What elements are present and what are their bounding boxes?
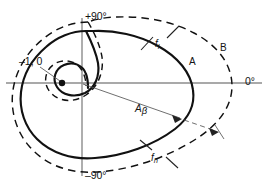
curve-a-label: A bbox=[189, 57, 196, 67]
curve-b-inner-loop-path bbox=[46, 22, 103, 100]
freq-high-ticks bbox=[140, 140, 178, 168]
freq-high-label: fh bbox=[151, 148, 158, 164]
freq-high-subscript: h bbox=[154, 156, 158, 165]
a-beta-symbol: A bbox=[135, 103, 142, 114]
freq-high-tick-dashed bbox=[166, 157, 178, 168]
a-beta-vector-group bbox=[83, 84, 224, 139]
curve-b-outer-path bbox=[12, 17, 232, 172]
a-beta-subscript: β bbox=[142, 105, 147, 116]
plot-canvas bbox=[0, 0, 268, 191]
a-beta-arrowhead-solid bbox=[172, 115, 182, 123]
freq-low-subscript: l bbox=[158, 42, 160, 51]
critical-point-label: –1, 0 bbox=[19, 56, 42, 67]
curve-b-dashed bbox=[12, 17, 232, 172]
critical-point-marker bbox=[59, 80, 65, 86]
freq-low-label: fl bbox=[155, 34, 159, 50]
curve-a-solid bbox=[21, 31, 194, 158]
freq-low-tick-dashed bbox=[167, 26, 179, 38]
nyquist-plot-figure: +90° –90° 0° –1, 0 A B fl fh Aβ bbox=[0, 0, 268, 191]
a-beta-vector-line bbox=[83, 84, 180, 118]
axis-label-minus-90: –90° bbox=[85, 170, 106, 181]
axis-label-zero-degrees: 0° bbox=[245, 76, 255, 87]
curve-b-label: B bbox=[220, 43, 227, 53]
a-beta-label: Aβ bbox=[135, 99, 147, 115]
axis-label-plus-90: +90° bbox=[85, 11, 107, 22]
curve-a-outer-path bbox=[21, 31, 194, 158]
